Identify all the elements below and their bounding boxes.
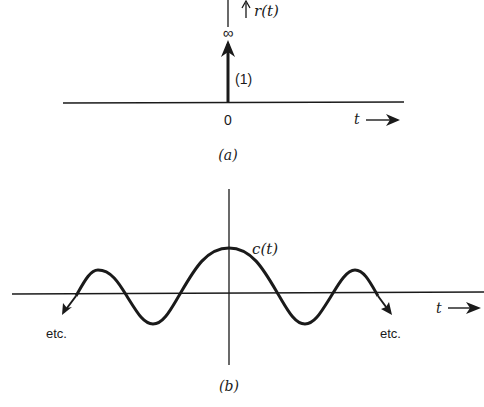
origin-label: 0 xyxy=(224,112,232,128)
figure-canvas: r(t) ∞ (1) 0 t (a) c(t) t xyxy=(0,0,484,407)
time-label-a: t xyxy=(354,111,360,127)
response-curve xyxy=(76,248,378,324)
figure-a: r(t) ∞ (1) 0 t (a) xyxy=(63,0,404,163)
right-etc-label: etc. xyxy=(380,326,401,341)
time-axis-a xyxy=(63,102,404,103)
time-axis-b xyxy=(12,292,484,294)
impulse-weight-label: (1) xyxy=(235,71,252,87)
r-arrow-icon xyxy=(242,1,250,18)
caption-a: (a) xyxy=(218,147,237,163)
c-signal-label: c(t) xyxy=(252,240,278,258)
caption-b: (b) xyxy=(219,378,239,394)
left-etc-label: etc. xyxy=(46,326,67,341)
r-signal-label: r(t) xyxy=(254,2,279,20)
time-arrow-icon-b xyxy=(448,302,481,314)
infinity-label: ∞ xyxy=(223,24,234,41)
figure-b: c(t) t etc. etc. (b) xyxy=(12,189,484,394)
time-arrow-icon-a xyxy=(366,114,400,126)
time-label-b: t xyxy=(436,300,442,316)
